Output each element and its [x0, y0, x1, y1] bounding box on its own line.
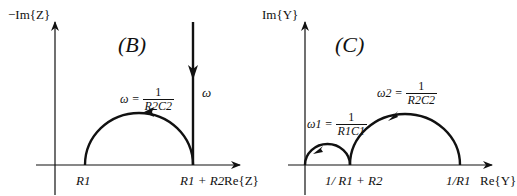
b-y-axis-label: −Im{Z} [8, 8, 50, 21]
c-y-axis-label: Im{Y} [262, 8, 298, 21]
c-omega1-den: R1C1 [336, 124, 367, 139]
c-panel-tag: (C) [335, 34, 364, 56]
b-semicircle [85, 113, 193, 165]
b-panel-tag: (B) [118, 34, 146, 56]
c-omega2-equation: ω2 = 1R2C2 [377, 80, 437, 107]
c-small-semicircle [305, 144, 350, 165]
c-omega1-num: 1 [346, 111, 356, 124]
diagram-canvas [0, 0, 517, 196]
b-omega-label: ω [202, 86, 211, 99]
c-omega1-lhs: ω1 = [307, 117, 333, 132]
b-omega-den: R2C2 [143, 99, 174, 114]
b-omega-num: 1 [153, 86, 163, 99]
b-omega-lhs: ω = [120, 92, 140, 107]
c-tick-mid: 1/ R1 + R2 [325, 174, 383, 187]
c-omega2-num: 1 [416, 80, 426, 93]
b-tick-r1r2: R1 + R2 [180, 174, 224, 187]
c-omega2-den: R2C2 [406, 93, 437, 108]
b-x-axis-label: Re{Z} [224, 174, 259, 187]
b-omega-equation: ω = 1R2C2 [120, 86, 174, 113]
c-x-axis-label: Re{Y} [480, 174, 516, 187]
c-tick-end: 1/R1 [446, 174, 471, 187]
c-omega2-lhs: ω2 = [377, 86, 403, 101]
c-omega1-equation: ω1 = 1R1C1 [307, 111, 367, 138]
b-tick-r1: R1 [76, 174, 90, 187]
